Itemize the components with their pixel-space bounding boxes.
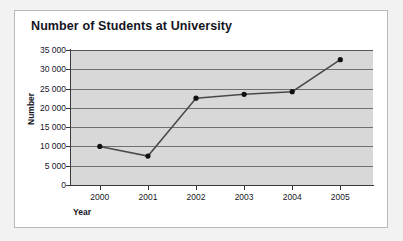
- y-tick-mark: [66, 146, 70, 147]
- y-axis-line: [70, 49, 71, 186]
- x-tick-label: 2005: [331, 192, 350, 202]
- x-axis-title: Year: [73, 207, 91, 217]
- x-tick-label: 2004: [283, 192, 302, 202]
- x-tick-label: 2001: [138, 192, 157, 202]
- x-tick-label: 2000: [90, 192, 109, 202]
- y-axis-title: Number: [26, 93, 36, 125]
- y-tick-mark: [66, 127, 70, 128]
- x-tick-mark: [196, 185, 197, 190]
- y-tick-label: 30 000: [40, 64, 66, 74]
- x-tick-label: 2003: [235, 192, 254, 202]
- y-tick-label: 15 000: [40, 122, 66, 132]
- x-tick-mark: [340, 185, 341, 190]
- y-tick-label: 35 000: [40, 45, 66, 55]
- y-tick-mark: [66, 69, 70, 70]
- y-tick-mark: [66, 185, 70, 186]
- data-point-marker: 2005: 32500: [338, 57, 343, 62]
- plot-area: 2000: 100002001: 75002002: 225002003: 23…: [70, 50, 373, 185]
- y-tick-label: 10 000: [40, 141, 66, 151]
- x-tick-mark: [100, 185, 101, 190]
- series-line: [100, 60, 340, 156]
- data-point-marker: 2000: 10000: [97, 144, 102, 149]
- x-tick-mark: [244, 185, 245, 190]
- x-tick-mark: [148, 185, 149, 190]
- data-point-marker: 2001: 7500: [145, 153, 150, 158]
- data-point-marker: 2003: 23500: [242, 92, 247, 97]
- y-tick-mark: [66, 108, 70, 109]
- y-tick-label: 20 000: [40, 103, 66, 113]
- y-tick-mark: [66, 166, 70, 167]
- series-line-layer: 2000: 100002001: 75002002: 225002003: 23…: [70, 50, 373, 185]
- chart-page: Number of Students at University 2000: 1…: [0, 0, 403, 241]
- data-point-marker: 2002: 22500: [193, 96, 198, 101]
- y-tick-mark: [66, 50, 70, 51]
- y-tick-label: 25 000: [40, 84, 66, 94]
- x-tick-mark: [292, 185, 293, 190]
- data-point-marker: 2004: 24200: [290, 89, 295, 94]
- x-axis-line: [69, 185, 374, 186]
- y-tick-mark: [66, 89, 70, 90]
- y-tick-label: 5 000: [45, 161, 66, 171]
- x-tick-label: 2002: [187, 192, 206, 202]
